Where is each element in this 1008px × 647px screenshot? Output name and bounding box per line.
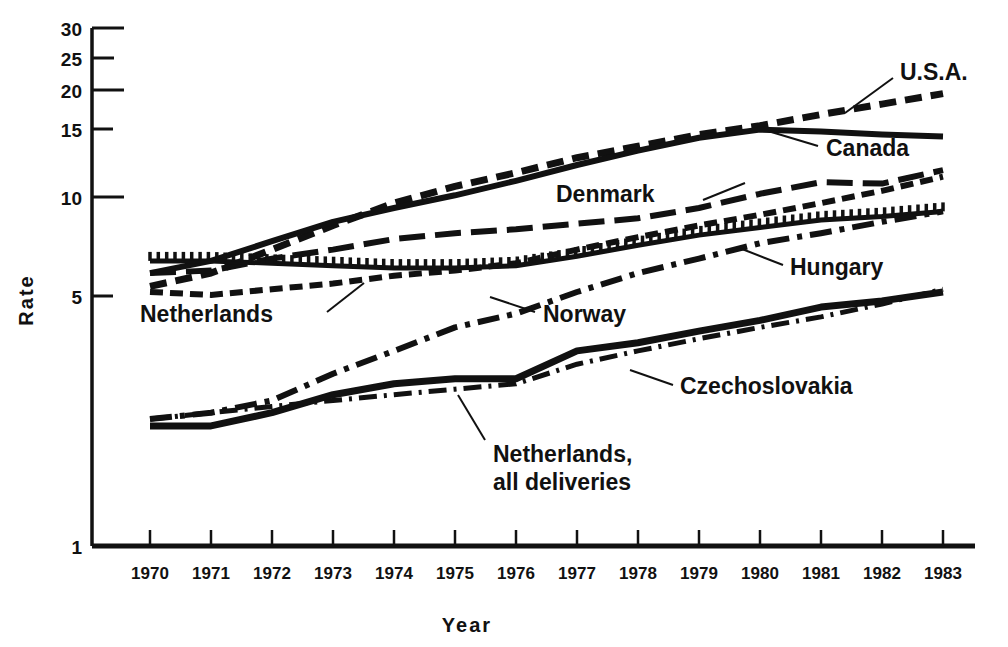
- x-axis: [92, 530, 975, 546]
- x-tick-label-1983: 1983: [924, 564, 962, 583]
- leader-czechoslovakia: [630, 370, 673, 385]
- chart-figure: 30 25 20 15 10 5 1 1970 1971 1972 1973 1…: [0, 0, 1008, 647]
- y-tick-label-5: 5: [71, 287, 82, 308]
- y-tick-label-20: 20: [61, 81, 82, 102]
- x-tick-label-1973: 1973: [314, 564, 352, 583]
- x-axis-title: Year: [442, 614, 492, 636]
- leader-norway: [490, 297, 535, 312]
- x-tick-label-1979: 1979: [680, 564, 718, 583]
- x-tick-label-1972: 1972: [253, 564, 291, 583]
- x-tick-label-1974: 1974: [375, 564, 413, 583]
- x-tick-label-1981: 1981: [802, 564, 840, 583]
- y-axis: [92, 28, 124, 546]
- x-tick-labels: 1970 1971 1972 1973 1974 1975 1976 1977 …: [131, 564, 962, 583]
- x-tick-label-1971: 1971: [192, 564, 230, 583]
- x-tick-label-1976: 1976: [497, 564, 535, 583]
- x-tick-label-1978: 1978: [619, 564, 657, 583]
- y-tick-label-15: 15: [61, 120, 83, 141]
- series-label-usa: U.S.A.: [900, 59, 968, 85]
- series-labels: U.S.A. Canada Denmark Hungary Netherland…: [140, 59, 968, 495]
- chart-svg: 30 25 20 15 10 5 1 1970 1971 1972 1973 1…: [0, 0, 1008, 647]
- series-label-hungary: Hungary: [790, 254, 884, 280]
- series-label-denmark: Denmark: [556, 181, 655, 207]
- x-tick-label-1975: 1975: [436, 564, 474, 583]
- series-label-netherlands-all-2: all deliveries: [493, 469, 631, 495]
- series-label-norway: Norway: [543, 301, 626, 327]
- y-tick-label-30: 30: [61, 19, 82, 40]
- leader-netherlands: [327, 283, 364, 312]
- x-tick-label-1970: 1970: [131, 564, 169, 583]
- y-tick-labels: 30 25 20 15 10 5 1: [61, 19, 83, 558]
- leader-netherlands-all: [458, 395, 485, 440]
- series-label-canada: Canada: [826, 135, 909, 161]
- x-tick-label-1982: 1982: [863, 564, 901, 583]
- series-label-netherlands: Netherlands: [140, 301, 273, 327]
- y-axis-title: Rate: [15, 274, 37, 325]
- y-tick-label-10: 10: [61, 188, 82, 209]
- x-tick-label-1980: 1980: [741, 564, 779, 583]
- leader-hungary: [742, 249, 783, 265]
- y-tick-label-1: 1: [71, 537, 82, 558]
- y-tick-label-25: 25: [61, 49, 83, 70]
- x-tick-label-1977: 1977: [558, 564, 596, 583]
- series-label-netherlands-all-1: Netherlands,: [493, 441, 632, 467]
- series-label-czechoslovakia: Czechoslovakia: [680, 373, 853, 399]
